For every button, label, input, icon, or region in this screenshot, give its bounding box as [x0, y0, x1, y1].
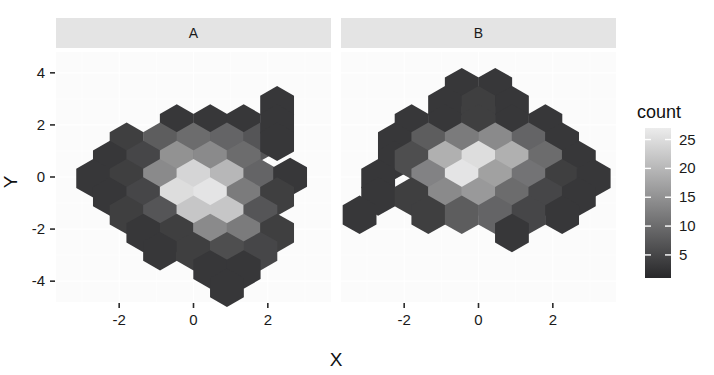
- facet-panel-b: B: [341, 18, 616, 302]
- legend-tick-label: 15: [679, 188, 696, 205]
- strip-label-a: A: [189, 25, 199, 41]
- legend-tick-label: 10: [679, 217, 696, 234]
- y-axis-tick-label: -4: [32, 272, 45, 289]
- y-axis-tick-label: 0: [37, 168, 45, 185]
- x-axis-tick-label: 0: [474, 311, 482, 328]
- legend-title: count: [637, 102, 681, 122]
- x-axis-tick-label: 0: [189, 311, 197, 328]
- x-axis-tick-label: 2: [549, 311, 557, 328]
- legend-tick-label: 5: [679, 246, 687, 263]
- y-axis-tick-label: -2: [32, 220, 45, 237]
- x-axis-tick-label: 2: [264, 311, 272, 328]
- legend-tick-label: 20: [679, 159, 696, 176]
- facet-panel-a: A: [56, 18, 331, 307]
- x-axis-title: X: [330, 349, 343, 370]
- y-axis-tick-label: 4: [37, 64, 45, 81]
- x-axis-tick-label: -2: [113, 311, 126, 328]
- plot-canvas: A B 420-2-4 -202 -202 X Y count: [0, 0, 714, 375]
- legend-tick-label: 25: [679, 131, 696, 148]
- hexbin-plot-figure: A B 420-2-4 -202 -202 X Y count: [0, 0, 714, 375]
- y-axis-tick-label: 2: [37, 116, 45, 133]
- x-axis-tick-label: -2: [398, 311, 411, 328]
- y-axis-title: Y: [0, 175, 21, 188]
- strip-label-b: B: [474, 25, 483, 41]
